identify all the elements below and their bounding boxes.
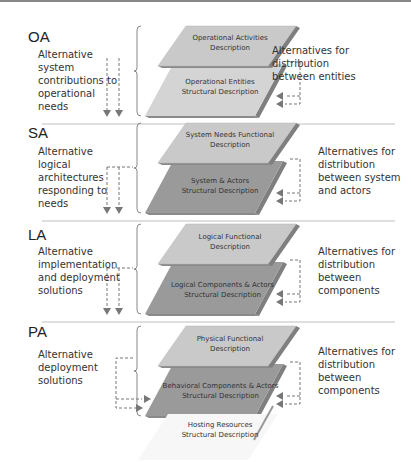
arrow-left-2-sa (276, 197, 283, 205)
pa-arrow-right-2 (136, 404, 143, 412)
layer-oa-top-shape-edge (158, 66, 272, 68)
layer-oa-bottom: Operational Entities Structural Descript… (160, 77, 280, 97)
layer-sa-top-shape-edge (158, 163, 272, 165)
brace-oa (134, 26, 141, 116)
layer-pa-top: Physical Functional Description (170, 334, 290, 354)
left-text-sa: Alternative logical architectures respon… (38, 145, 107, 210)
arrow-left-2-pa (276, 400, 283, 408)
section-label-oa: OA (28, 28, 50, 45)
layer-sa-bottom: System & Actors Structural Description (160, 176, 280, 196)
section-label-sa: SA (28, 124, 48, 141)
left-text-la: Alternative implementation and deploymen… (38, 245, 120, 297)
layer-la-bottom: Logical Components & Actors Structural D… (155, 280, 290, 300)
layer-oa-bottom-shape-edge (145, 116, 259, 118)
layer-sa-bottom-shape-edge (145, 213, 259, 215)
arrow-left-2-oa (276, 100, 283, 108)
right-text-la: Alternatives for distribution between co… (318, 245, 395, 297)
left-text-pa: Alternative deployment solutions (38, 348, 98, 387)
layer-la-bottom-shape-edge (145, 314, 259, 316)
section-label-la: LA (28, 226, 46, 243)
brace-la (134, 224, 141, 314)
section-label-pa: PA (28, 323, 47, 340)
brace-sa (134, 123, 141, 213)
layer-la-top-shape-edge (158, 264, 272, 266)
layer-la-top: Logical Functional Description (170, 232, 290, 252)
layer-pa-bottom: Behavioral Components & Actors Structura… (148, 381, 293, 401)
arrow-down-2-la (115, 308, 123, 315)
feedback-line-outer-sa (285, 159, 300, 201)
left-text-oa: Alternative system contributions to oper… (38, 48, 117, 113)
right-text-pa: Alternatives for distribution between co… (318, 345, 395, 397)
layer-oa-top: Operational Activities Description (170, 33, 290, 53)
layer-pa-hosting: Hosting Resources Structural Description (160, 420, 280, 440)
layer-sa-top: System Needs Functional Description (170, 130, 290, 150)
brace-pa (134, 326, 141, 416)
pa-left-outer-line (116, 358, 142, 408)
right-text-sa: Alternatives for distribution between sy… (318, 145, 401, 197)
arrow-down-1-la (103, 308, 111, 315)
layer-pa-top-shape-edge (158, 366, 272, 368)
arrow-down-2-sa (115, 207, 123, 214)
